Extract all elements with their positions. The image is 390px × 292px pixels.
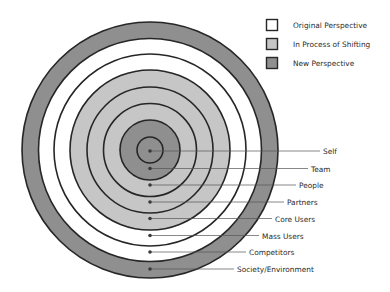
label-self: Self — [323, 147, 337, 156]
dot-team — [148, 167, 152, 171]
dot-society — [148, 267, 152, 271]
dot-core-users — [148, 217, 152, 221]
label-core-users: Core Users — [275, 215, 315, 224]
label-team: Team — [310, 165, 331, 174]
label-society-environment: Society/Environment — [237, 265, 314, 274]
legend-label-original: Original Perspective — [293, 21, 368, 30]
legend: Original Perspective In Process of Shift… — [267, 20, 371, 69]
label-partners: Partners — [287, 198, 318, 207]
legend-swatch-new — [267, 58, 278, 69]
legend-label-shifting: In Process of Shifting — [293, 40, 371, 49]
dot-people — [148, 183, 152, 187]
legend-swatch-original — [267, 20, 278, 31]
label-competitors: Competitors — [249, 248, 295, 257]
dot-competitors — [148, 250, 152, 254]
dot-self — [148, 149, 152, 153]
dot-mass-users — [148, 234, 152, 238]
legend-swatch-shifting — [267, 39, 278, 50]
label-mass-users: Mass Users — [262, 232, 304, 241]
label-people: People — [299, 181, 324, 190]
dot-partners — [148, 200, 152, 204]
legend-label-new: New Perspective — [293, 59, 355, 68]
concentric-perspective-diagram: Self Team People Partners Core Users Mas… — [0, 0, 390, 292]
